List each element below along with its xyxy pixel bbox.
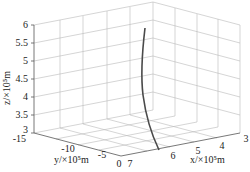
svg-text:6: 6 (23, 19, 28, 30)
svg-text:4: 4 (220, 140, 225, 151)
3d-line-chart: 6 5.5 5 4.5 4 3.5 3 -15 -10 -5 0 7 6 5 4… (0, 0, 250, 172)
z-tick-labels: 6 5.5 5 4.5 4 3.5 3 (16, 19, 29, 135)
y-axis-label: y/×10⁵m (54, 154, 89, 165)
axes (31, 25, 240, 156)
y-axis-line (34, 133, 121, 156)
svg-text:4: 4 (23, 91, 28, 102)
z-axis-label: z/×10⁵m (1, 71, 12, 105)
svg-text:3: 3 (244, 133, 249, 144)
svg-text:-10: -10 (61, 143, 74, 154)
svg-text:-15: -15 (13, 133, 26, 144)
svg-text:3.5: 3.5 (16, 109, 29, 120)
svg-text:4.5: 4.5 (16, 73, 29, 84)
svg-text:6: 6 (171, 150, 176, 161)
svg-text:7: 7 (128, 158, 133, 169)
svg-text:5.5: 5.5 (16, 37, 29, 48)
trajectory-curve (142, 28, 159, 150)
svg-text:-5: -5 (98, 149, 106, 160)
x-axis-label: x/×10⁵m (190, 154, 225, 165)
grid-lines (34, 2, 240, 151)
svg-text:0: 0 (117, 158, 122, 169)
svg-text:5: 5 (23, 55, 28, 66)
